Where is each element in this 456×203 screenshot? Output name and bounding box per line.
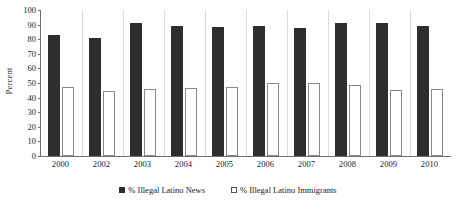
x-axis-tick-labels: 2000200220032004200520062007200820092010 (40, 159, 450, 175)
x-tick-label: 2002 (81, 159, 122, 175)
bar-chart: Percent 0102030405060708090100 200020022… (0, 0, 456, 203)
bar-group (328, 10, 369, 156)
x-tick-label: 2007 (286, 159, 327, 175)
bar-group (287, 10, 328, 156)
y-tick-mark (38, 98, 41, 99)
y-axis-title-text: Percent (4, 68, 14, 95)
bar-illegal-latino-immigrants (267, 83, 280, 156)
bar-illegal-latino-news (48, 35, 61, 156)
legend-entry: % Illegal Latino Immigrants (231, 185, 337, 195)
bar-illegal-latino-immigrants (185, 88, 198, 156)
bar-illegal-latino-immigrants (103, 91, 116, 156)
plot-area (40, 10, 451, 157)
y-tick-label: 100 (23, 5, 36, 15)
y-tick-mark (38, 10, 41, 11)
bar-illegal-latino-immigrants (431, 89, 444, 156)
y-tick-label: 40 (28, 93, 37, 103)
bar-illegal-latino-immigrants (62, 87, 75, 156)
y-tick-mark (38, 156, 41, 157)
legend-label: % Illegal Latino Immigrants (240, 185, 337, 195)
y-tick-mark (38, 39, 41, 40)
y-tick-mark (38, 127, 41, 128)
bar-illegal-latino-immigrants (349, 85, 362, 156)
y-tick-mark (38, 54, 41, 55)
y-tick-label: 70 (28, 49, 37, 59)
x-tick-label: 2010 (409, 159, 450, 175)
y-tick-label: 80 (28, 34, 37, 44)
bar-group (164, 10, 205, 156)
y-tick-label: 50 (28, 78, 37, 88)
bar-illegal-latino-news (89, 38, 102, 156)
bar-group (246, 10, 287, 156)
bar-group (41, 10, 82, 156)
bars-layer (41, 10, 451, 156)
y-tick-label: 90 (28, 20, 37, 30)
bar-illegal-latino-news (253, 26, 266, 156)
y-tick-mark (38, 68, 41, 69)
bar-illegal-latino-immigrants (308, 83, 321, 156)
x-tick-label: 2008 (327, 159, 368, 175)
chart-legend: % Illegal Latino News% Illegal Latino Im… (0, 181, 456, 199)
legend-swatch-hollow-icon (231, 187, 237, 193)
y-tick-mark (38, 83, 41, 84)
bar-illegal-latino-news (171, 26, 184, 156)
legend-entry: % Illegal Latino News (119, 185, 205, 195)
bar-illegal-latino-immigrants (144, 89, 157, 156)
x-tick-label: 2009 (368, 159, 409, 175)
y-tick-label: 30 (28, 107, 37, 117)
y-tick-mark (38, 25, 41, 26)
bar-illegal-latino-news (130, 23, 143, 156)
bar-group (369, 10, 410, 156)
x-tick-label: 2006 (245, 159, 286, 175)
bar-illegal-latino-immigrants (226, 87, 239, 156)
bar-group (82, 10, 123, 156)
bar-illegal-latino-news (417, 26, 430, 156)
x-tick-label: 2000 (40, 159, 81, 175)
bar-illegal-latino-news (294, 28, 307, 156)
y-tick-label: 60 (28, 63, 37, 73)
y-axis-tick-labels: 0102030405060708090100 (16, 10, 38, 156)
bar-illegal-latino-news (335, 23, 348, 156)
legend-label: % Illegal Latino News (128, 185, 205, 195)
x-tick-label: 2004 (163, 159, 204, 175)
y-tick-mark (38, 141, 41, 142)
bar-group (205, 10, 246, 156)
x-tick-label: 2005 (204, 159, 245, 175)
bar-illegal-latino-news (212, 27, 225, 156)
y-tick-label: 0 (32, 151, 36, 161)
y-tick-label: 10 (28, 136, 37, 146)
legend-swatch-filled-icon (119, 187, 125, 193)
y-tick-mark (38, 112, 41, 113)
x-tick-label: 2003 (122, 159, 163, 175)
bar-group (123, 10, 164, 156)
bar-illegal-latino-immigrants (390, 90, 403, 156)
y-tick-label: 20 (28, 122, 37, 132)
bar-group (410, 10, 451, 156)
bar-illegal-latino-news (376, 23, 389, 156)
